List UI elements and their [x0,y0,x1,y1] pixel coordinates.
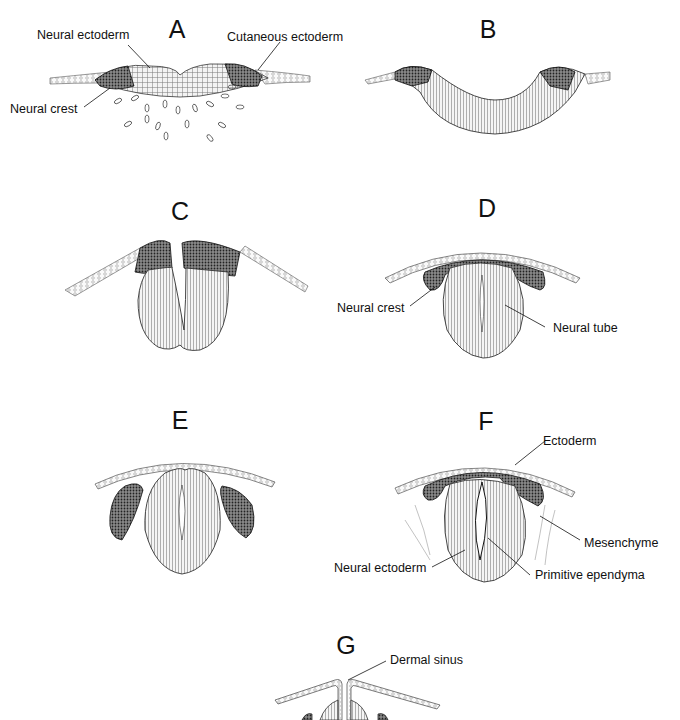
label-a-cutaneous-ectoderm: Cutaneous ectoderm [227,31,343,44]
panel-a-drawing [50,42,310,142]
panel-letter-d: D [478,196,496,221]
panel-b-drawing [365,66,610,134]
panel-letter-e: E [172,408,189,433]
panel-f-leader-ectoderm [515,441,545,465]
panel-g-drawing [275,661,440,720]
label-a-neural-ectoderm: Neural ectoderm [37,29,129,42]
panel-a-leader-neural-ectoderm [128,45,150,68]
panel-f-leader-mesenchyme [540,516,580,540]
label-f-ectoderm: Ectoderm [543,435,597,448]
panel-a-leader-neural-crest [84,88,110,107]
panel-a-neural-crest-left [95,66,134,89]
panel-g-neural-crest [302,714,388,720]
panel-letter-a: A [169,17,186,42]
label-g-dermal-sinus: Dermal sinus [390,654,463,667]
panel-a-leader-cutaneous-ectoderm [258,42,280,70]
label-f-neural-ectoderm: Neural ectoderm [334,562,426,575]
panel-letter-f: F [478,409,493,434]
label-d-neural-tube: Neural tube [553,322,618,335]
panel-letter-c: C [171,199,189,224]
panel-letter-g: G [336,633,355,658]
panel-d-leader-neural-crest [410,287,435,306]
panel-g-leader-dermal-sinus [348,661,386,680]
label-a-neural-crest: Neural crest [10,103,77,116]
panel-d-drawing [385,253,580,358]
panel-e-drawing [95,463,275,574]
panel-c-drawing [65,240,308,350]
panel-e-neural-crest-left [110,484,143,540]
panel-letter-b: B [480,17,497,42]
figure-drawings [0,0,680,720]
panel-g-neural-tube-top [320,700,368,720]
panel-c-neural-tube [138,267,228,350]
label-d-neural-crest: Neural crest [337,302,404,315]
panel-e-neural-crest-right [221,486,254,538]
label-f-primitive-ependyma: Primitive ependyma [535,569,645,582]
label-f-mesenchyme: Mesenchyme [584,537,658,550]
